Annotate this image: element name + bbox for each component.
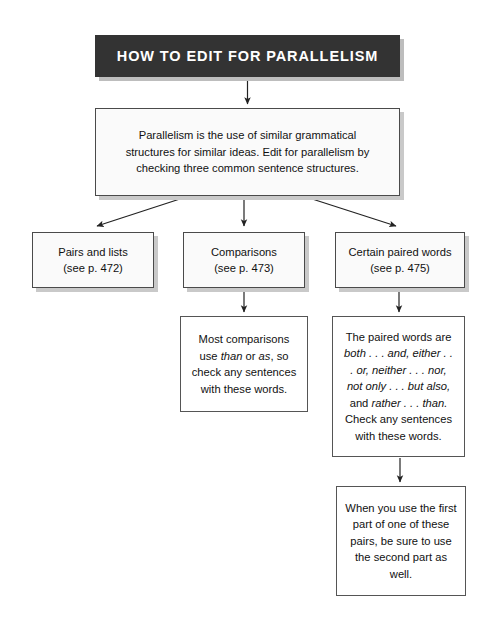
- node-certain-paired-words: Certain paired words (see p. 475): [335, 232, 465, 288]
- node-comparisons-detail-italic1: than: [221, 350, 243, 362]
- node-paired-words-detail-italic1: both . . . and, either . . . or, neither…: [344, 347, 453, 392]
- node-definition-text: Parallelism is the use of similar gramma…: [118, 127, 378, 177]
- node-pairs-and-lists: Pairs and lists (see p. 472): [32, 232, 154, 288]
- node-paired-words-detail: The paired words are both . . . and, eit…: [332, 316, 465, 457]
- node-paired-words-detail-seg1: The paired words are: [346, 331, 452, 343]
- node-paired-words-note-text: When you use the first part of one of th…: [337, 500, 465, 583]
- node-paired-words-detail-seg2: and: [350, 397, 372, 409]
- connector-definition-to-paired-words: [306, 197, 396, 226]
- node-paired-words-detail-text: The paired words are both . . . and, eit…: [333, 329, 464, 445]
- node-comparisons-line2: (see p. 473): [214, 262, 274, 274]
- flowchart-page: HOW TO EDIT FOR PARALLELISM Parallelism …: [0, 0, 491, 627]
- flowchart-title-text: HOW TO EDIT FOR PARALLELISM: [117, 48, 378, 64]
- node-comparisons-text: Comparisons (see p. 473): [203, 244, 285, 277]
- node-comparisons-detail-seg2: or: [242, 350, 258, 362]
- node-paired-words-detail-italic2: rather . . . than.: [371, 397, 447, 409]
- node-paired-words-note: When you use the first part of one of th…: [336, 486, 466, 596]
- node-comparisons-detail: Most comparisons use than or as, so chec…: [180, 316, 308, 412]
- node-certain-paired-words-line2: (see p. 475): [370, 262, 430, 274]
- node-pairs-and-lists-line1: Pairs and lists: [58, 246, 128, 258]
- node-comparisons: Comparisons (see p. 473): [183, 232, 305, 288]
- connector-definition-to-pairs: [97, 197, 186, 226]
- node-pairs-and-lists-line2: (see p. 472): [63, 262, 123, 274]
- node-comparisons-line1: Comparisons: [211, 246, 277, 258]
- node-definition-line2: structures for similar ideas. Edit for p…: [126, 146, 370, 158]
- node-certain-paired-words-line1: Certain paired words: [348, 246, 451, 258]
- node-comparisons-detail-italic2: as: [259, 350, 271, 362]
- node-definition-line3: checking three common sentence structure…: [136, 162, 359, 174]
- node-paired-words-detail-seg3: Check any sentences with these words.: [345, 413, 452, 442]
- node-definition-line1: Parallelism is the use of similar gramma…: [139, 129, 357, 141]
- node-definition: Parallelism is the use of similar gramma…: [95, 108, 400, 196]
- node-certain-paired-words-text: Certain paired words (see p. 475): [340, 244, 459, 277]
- node-pairs-and-lists-text: Pairs and lists (see p. 472): [50, 244, 136, 277]
- flowchart-title-banner: HOW TO EDIT FOR PARALLELISM: [95, 35, 400, 77]
- node-comparisons-detail-text: Most comparisons use than or as, so chec…: [181, 331, 307, 397]
